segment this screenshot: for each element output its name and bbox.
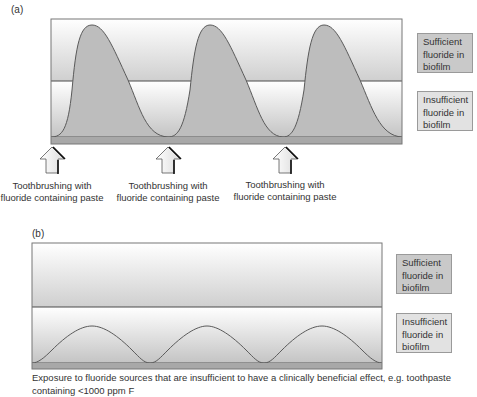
toothbrushing-arrow-3 xyxy=(273,147,298,174)
panel-b-chart xyxy=(32,243,382,369)
legend-insufficient-a: Insufficient fluoride in biofilm xyxy=(417,91,473,131)
toothbrushing-arrow-1 xyxy=(40,147,65,174)
panel-b-caption: Exposure to fluoride sources that are in… xyxy=(32,372,452,397)
baseline-strip xyxy=(32,363,382,369)
sufficient-band xyxy=(32,243,382,307)
arrow-label-1: Toothbrushing with fluoride containing p… xyxy=(0,180,107,204)
legend-sufficient-a: Sufficient fluoride in biofilm xyxy=(417,33,473,73)
panel-a-chart xyxy=(51,19,402,144)
legend-sufficient-b: Sufficient fluoride in biofilm xyxy=(396,254,452,294)
toothbrushing-arrow-2 xyxy=(156,147,181,174)
baseline-strip xyxy=(51,137,402,144)
legend-insufficient-b: Insufficient fluoride in biofilm xyxy=(396,313,452,353)
arrow-label-2: Toothbrushing with fluoride containing p… xyxy=(113,180,223,204)
insufficient-band xyxy=(32,307,382,363)
arrow-label-3: Toothbrushing with fluoride containing p… xyxy=(230,179,340,203)
